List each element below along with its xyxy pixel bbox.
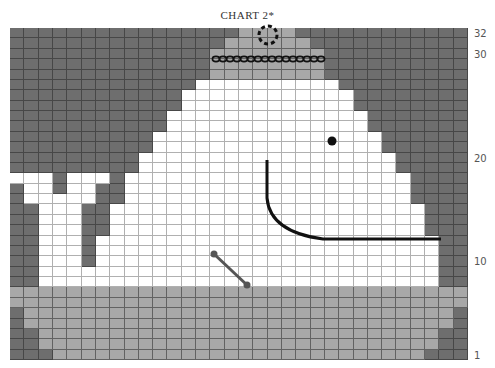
grid-cell — [454, 329, 468, 339]
grid-cell — [268, 173, 282, 183]
grid-cell — [67, 173, 81, 183]
grid-cell — [110, 59, 124, 69]
grid-cell — [125, 111, 139, 121]
grid-cell — [167, 59, 181, 69]
grid-cell — [96, 236, 110, 246]
grid-cell — [53, 329, 67, 339]
grid-cell — [153, 277, 167, 287]
grid-cell — [439, 225, 453, 235]
grid-cell — [67, 38, 81, 48]
grid-cell — [53, 267, 67, 277]
grid-cell — [282, 267, 296, 277]
grid-cell — [296, 101, 310, 111]
grid-cell — [239, 277, 253, 287]
grid-cell — [24, 132, 38, 142]
grid-cell — [454, 256, 468, 266]
grid-cell — [311, 49, 325, 59]
grid-cell — [182, 287, 196, 297]
grid-cell — [282, 204, 296, 214]
grid-cell — [96, 153, 110, 163]
grid-cell — [182, 339, 196, 349]
grid-cell — [225, 90, 239, 100]
grid-cell — [196, 173, 210, 183]
grid-cell — [368, 184, 382, 194]
grid-cell — [282, 121, 296, 131]
grid-cell — [225, 184, 239, 194]
grid-cell — [10, 111, 24, 121]
grid-cell — [67, 132, 81, 142]
grid-cell — [225, 215, 239, 225]
grid-cell — [439, 329, 453, 339]
grid-cell — [196, 287, 210, 297]
grid-cell — [24, 287, 38, 297]
grid-cell — [425, 153, 439, 163]
grid-cell — [167, 90, 181, 100]
grid-cell — [53, 277, 67, 287]
grid-cell — [296, 142, 310, 152]
grid-cell — [210, 70, 224, 80]
grid-cell — [225, 163, 239, 173]
grid-cell — [82, 121, 96, 131]
grid-cell — [10, 339, 24, 349]
grid-cell — [296, 28, 310, 38]
grid-cell — [53, 70, 67, 80]
grid-cell — [139, 194, 153, 204]
grid-cell — [439, 339, 453, 349]
grid-cell — [354, 153, 368, 163]
grid-cell — [339, 204, 353, 214]
grid-cell — [382, 38, 396, 48]
grid-cell — [425, 28, 439, 38]
grid-cell — [196, 319, 210, 329]
grid-cell — [396, 163, 410, 173]
grid-cell — [96, 163, 110, 173]
grid-cell — [339, 121, 353, 131]
grid-cell — [268, 49, 282, 59]
grid-cell — [253, 236, 267, 246]
grid-cell — [354, 38, 368, 48]
grid-cell — [239, 184, 253, 194]
grid-cell — [311, 225, 325, 235]
grid-cell — [153, 101, 167, 111]
grid-cell — [139, 111, 153, 121]
grid-cell — [282, 308, 296, 318]
grid-cell — [339, 267, 353, 277]
grid-cell — [82, 153, 96, 163]
grid-cell — [325, 267, 339, 277]
grid-cell — [354, 101, 368, 111]
grid-cell — [368, 121, 382, 131]
grid-cell — [139, 225, 153, 235]
grid-cell — [282, 142, 296, 152]
grid-cell — [425, 298, 439, 308]
grid-cell — [325, 49, 339, 59]
grid-cell — [354, 308, 368, 318]
row-label: 30 — [474, 48, 487, 59]
grid-cell — [153, 319, 167, 329]
grid-cell — [225, 225, 239, 235]
grid-cell — [82, 70, 96, 80]
grid-cell — [139, 267, 153, 277]
grid-cell — [196, 38, 210, 48]
grid-cell — [139, 59, 153, 69]
grid-cell — [268, 329, 282, 339]
grid-cell — [325, 28, 339, 38]
grid-cell — [210, 90, 224, 100]
grid-cell — [210, 59, 224, 69]
grid-cell — [196, 329, 210, 339]
grid-cell — [239, 204, 253, 214]
grid-cell — [182, 225, 196, 235]
grid-cell — [454, 194, 468, 204]
grid-cell — [39, 28, 53, 38]
grid-cell — [96, 298, 110, 308]
grid-cell — [110, 90, 124, 100]
grid-cell — [282, 298, 296, 308]
grid-cell — [425, 339, 439, 349]
grid-cell — [10, 49, 24, 59]
grid-cell — [24, 121, 38, 131]
grid-cell — [24, 80, 38, 90]
grid-cell — [396, 70, 410, 80]
grid-cell — [368, 80, 382, 90]
grid-cell — [139, 142, 153, 152]
grid-cell — [10, 173, 24, 183]
grid-cell — [454, 101, 468, 111]
grid-cell — [311, 142, 325, 152]
